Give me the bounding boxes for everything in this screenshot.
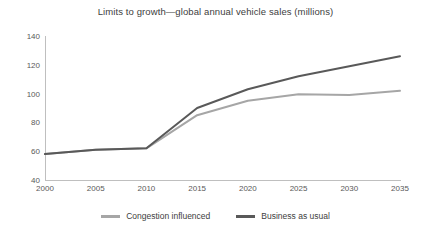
x-tick-label: 2000 <box>36 184 54 193</box>
x-tick-label: 2035 <box>391 184 409 193</box>
y-tick-label: 60 <box>10 147 40 156</box>
y-tick-label: 120 <box>10 60 40 69</box>
x-tick-label: 2030 <box>340 184 358 193</box>
plot-area <box>45 36 400 180</box>
chart-container: Limits to growth—global annual vehicle s… <box>0 0 431 237</box>
chart-title: Limits to growth—global annual vehicle s… <box>0 6 431 17</box>
y-axis-tick-labels: 406080100120140 <box>8 0 40 237</box>
y-tick-label: 80 <box>10 118 40 127</box>
series-lines <box>45 36 400 180</box>
x-tick-label: 2015 <box>188 184 206 193</box>
y-tick-label: 100 <box>10 89 40 98</box>
legend-item[interactable]: Congestion influenced <box>101 211 210 221</box>
legend-item[interactable]: Business as usual <box>236 211 330 221</box>
x-tick-label: 2005 <box>87 184 105 193</box>
x-axis-tick-labels: 20002005201020152020202520302035 <box>0 184 431 198</box>
legend-label: Business as usual <box>261 211 330 221</box>
x-tick-label: 2010 <box>138 184 156 193</box>
series-line <box>45 56 400 154</box>
x-tick-label: 2020 <box>239 184 257 193</box>
legend-label: Congestion influenced <box>126 211 210 221</box>
chart-legend: Congestion influencedBusiness as usual <box>0 211 431 221</box>
series-line <box>45 91 400 154</box>
y-tick-label: 140 <box>10 32 40 41</box>
legend-swatch-icon <box>236 215 255 218</box>
x-axis-line <box>45 180 401 181</box>
x-tick-label: 2025 <box>290 184 308 193</box>
legend-swatch-icon <box>101 215 120 218</box>
